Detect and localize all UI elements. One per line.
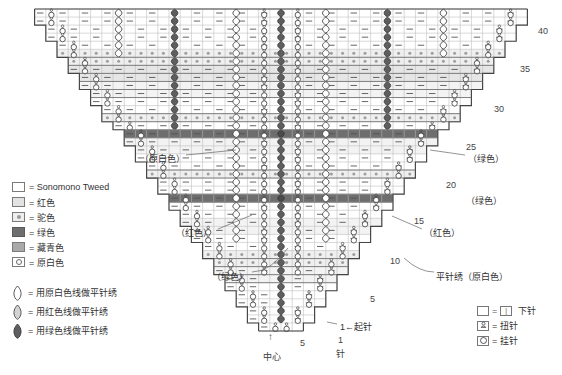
legend-label-camel: = 驼色 <box>29 211 55 224</box>
annotation-green-right: （绿色） <box>468 152 504 165</box>
axis-label-5: 5 <box>300 338 305 348</box>
legend-label-yarnover: = 挂针 <box>492 334 518 347</box>
bean-light-icon <box>12 304 23 320</box>
stitch-yarnover-box-icon <box>477 336 489 346</box>
center-label: 中心 <box>252 350 292 363</box>
swatch-green-icon <box>12 227 25 237</box>
annotation-green-mid-right: （绿色） <box>466 194 502 207</box>
legend-item-red: = 红色 <box>12 195 182 209</box>
legend-item-camel: = 驼色 <box>12 210 182 224</box>
legend-label-embroidery-natural: = 用原白色线做平针绣 <box>28 286 117 299</box>
legend-label-navy: = 藏青色 <box>29 241 64 254</box>
legend-label-embroidery-green: = 用绿色线做平针绣 <box>28 324 108 337</box>
legend-item-yarnover: = 挂针 <box>477 333 562 348</box>
legend-label-twist: = 扭针 <box>492 319 518 332</box>
legend-label-red: = 红色 <box>29 196 55 209</box>
legend-item-embroidery-natural: = 用原白色线做平针绣 <box>12 283 192 302</box>
legend-embroidery: = 用原白色线做平针绣 = 用红色线做平针绣 = 用绿色线做平针绣 <box>12 283 192 340</box>
row-number-25: 25 <box>466 142 476 152</box>
row-number-35: 35 <box>520 64 530 74</box>
annotation-red-left: （红色） <box>176 226 212 239</box>
swatch-natural-icon <box>12 257 25 267</box>
knitting-chart-page: = Sonomono Tweed = 红色 = 驼色 = 绿色 = 藏青色 = … <box>0 0 562 375</box>
swatch-camel-icon <box>12 212 25 222</box>
row-number-5: 5 <box>370 294 375 304</box>
legend-item-twist: = 扭针 <box>477 318 562 333</box>
row-number-10: 10 <box>390 256 400 266</box>
legend-item-embroidery-red: = 用红色线做平针绣 <box>12 302 192 321</box>
legend-stitches: = | 下针 = 扭针 = 挂针 <box>477 303 562 348</box>
bean-dark-icon <box>12 323 23 339</box>
row-number-30: 30 <box>494 104 504 114</box>
legend-item-embroidery-green: = 用绿色线做平针绣 <box>12 321 192 340</box>
legend-item-knit: = | 下针 <box>477 303 562 318</box>
axis-label-needle: 针 <box>336 347 345 360</box>
axis-label-1: 1 <box>338 335 343 345</box>
legend-label-embroidery-red: = 用红色线做平针绣 <box>28 305 108 318</box>
legend-label-knit: 下针 <box>518 304 536 317</box>
annotation-satin-stitch-right: 平针绣（原白色） <box>436 270 508 283</box>
legend-label-green: = 绿色 <box>29 226 55 239</box>
row-number-20: 20 <box>446 180 456 190</box>
equals-sign-1: = <box>492 306 497 316</box>
center-arrow-icon: ↑ <box>268 332 273 342</box>
annotation-green-left: （绿色） <box>212 270 248 283</box>
swatch-white-icon <box>12 182 25 192</box>
stitch-twist-box-icon <box>477 321 489 331</box>
legend-colors: = Sonomono Tweed = 红色 = 驼色 = 绿色 = 藏青色 = … <box>12 180 182 270</box>
annotation-red-right: （红色） <box>424 226 460 239</box>
stitch-empty-box-icon <box>477 306 489 316</box>
bean-outline-icon <box>12 285 23 301</box>
legend-item-green: = 绿色 <box>12 225 182 239</box>
legend-item-sonomono: = Sonomono Tweed <box>12 180 182 194</box>
row-number-15: 15 <box>414 216 424 226</box>
legend-item-natural: = 原白色 <box>12 255 182 269</box>
legend-label-sonomono: = Sonomono Tweed <box>29 182 109 192</box>
legend-item-navy: = 藏青色 <box>12 240 182 254</box>
annotation-natural-white-left: （原白色） <box>140 152 185 165</box>
legend-label-natural: = 原白色 <box>29 256 64 269</box>
stitch-knit-box-icon: | <box>500 306 512 316</box>
annotation-cast-on: 1←起针 <box>340 320 372 333</box>
row-number-40: 40 <box>538 26 548 36</box>
swatch-red-icon <box>12 197 25 207</box>
swatch-navy-icon <box>12 242 25 252</box>
